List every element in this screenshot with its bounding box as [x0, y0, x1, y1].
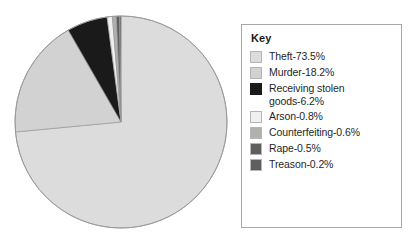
pie-graphic [13, 14, 229, 230]
legend-item: Arson-0.8% [250, 110, 393, 123]
legend-items: Theft-73.5%Murder-18.2%Receiving stolen … [250, 50, 393, 171]
legend-item: Counterfeiting-0.6% [250, 126, 393, 139]
legend-title: Key [251, 32, 393, 45]
legend-item-label: Receiving stolen goods-6.2% [269, 82, 344, 107]
legend-item-label: Rape-0.5% [269, 142, 321, 155]
legend-item: Rape-0.5% [250, 142, 393, 155]
legend: Key Theft-73.5%Murder-18.2%Receiving sto… [241, 24, 402, 228]
legend-item-label: Counterfeiting-0.6% [269, 126, 360, 139]
legend-swatch-icon [250, 51, 262, 63]
pie-chart: Key Theft-73.5%Murder-18.2%Receiving sto… [0, 0, 413, 242]
legend-item-label: Theft-73.5% [269, 50, 325, 63]
legend-swatch-icon [250, 83, 262, 95]
legend-swatch-icon [250, 111, 262, 123]
legend-item: Theft-73.5% [250, 50, 393, 63]
legend-item: Murder-18.2% [250, 66, 393, 79]
legend-swatch-icon [250, 143, 262, 155]
legend-item: Treason-0.2% [250, 158, 393, 171]
legend-swatch-icon [250, 127, 262, 139]
pie-svg [13, 14, 229, 230]
legend-item: Receiving stolen goods-6.2% [250, 82, 393, 107]
legend-swatch-icon [250, 159, 262, 171]
legend-item-label: Murder-18.2% [269, 66, 334, 79]
legend-item-label: Treason-0.2% [269, 158, 333, 171]
legend-swatch-icon [250, 67, 262, 79]
legend-item-label: Arson-0.8% [269, 110, 323, 123]
